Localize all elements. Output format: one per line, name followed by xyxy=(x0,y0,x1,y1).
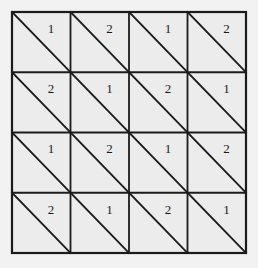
cell-value-label: 2 xyxy=(223,141,230,156)
cell-value-label: 1 xyxy=(165,21,172,36)
cell-value-label: 1 xyxy=(223,202,230,217)
cell-value-label: 2 xyxy=(223,21,230,36)
cell-value-label: 2 xyxy=(106,141,113,156)
cell-value-label: 2 xyxy=(48,202,55,217)
cell-value-label: 1 xyxy=(106,202,113,217)
cell-value-label: 2 xyxy=(106,21,113,36)
cell-value-label: 1 xyxy=(48,21,55,36)
cell-value-label: 2 xyxy=(165,81,172,96)
triangulated-grid-figure: 1212212112122121 xyxy=(0,0,258,268)
cell-value-label: 1 xyxy=(223,81,230,96)
cell-value-label: 1 xyxy=(165,141,172,156)
cell-value-label: 1 xyxy=(48,141,55,156)
cell-value-label: 1 xyxy=(106,81,113,96)
cell-value-label: 2 xyxy=(165,202,172,217)
cell-value-label: 2 xyxy=(48,81,55,96)
diagram-canvas: 1212212112122121 xyxy=(0,0,258,268)
